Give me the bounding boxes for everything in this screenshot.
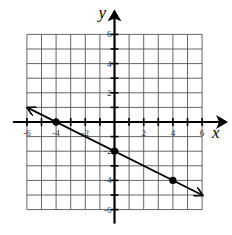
x-tick-label: 6 [200,128,205,138]
y-tick-label: -4 [104,175,112,185]
x-tick-label: 2 [141,128,146,138]
x-tick-label: -4 [52,128,60,138]
coordinate-plane: -6-4-2246642-2-4-6 x y [0,0,232,235]
x-axis-label: x [211,123,220,142]
y-axis-label: y [97,3,107,22]
x-tick-label: -6 [23,128,31,138]
data-point [53,118,60,125]
data-point [111,148,118,155]
x-tick-label: 4 [171,128,176,138]
y-tick-label: 4 [107,59,112,69]
data-point [169,177,176,184]
y-tick-label: 6 [107,29,112,39]
y-tick-label: 2 [107,88,112,98]
y-tick-label: -6 [104,205,112,215]
